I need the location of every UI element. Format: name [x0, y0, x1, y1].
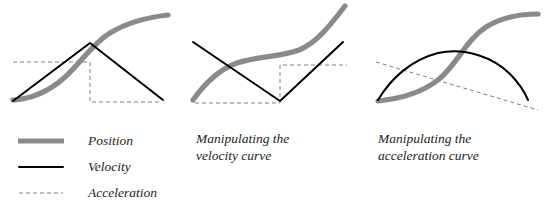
panel-2-plot [185, 0, 361, 125]
panel-position-velocity-acceleration [0, 0, 182, 125]
panel-manipulating-velocity [185, 0, 361, 125]
position-curve [193, 6, 345, 100]
panel-manipulating-acceleration [366, 0, 548, 125]
legend-label-acceleration: Acceleration [88, 180, 157, 206]
legend-item-velocity: Velocity [0, 154, 185, 180]
velocity-line-swatch-icon [18, 160, 64, 174]
legend-item-position: Position [0, 128, 185, 154]
legend-label-position: Position [88, 128, 133, 154]
velocity-curve [378, 51, 528, 100]
velocity-curve [193, 42, 343, 101]
caption-panel-2: Manipulating the velocity curve [196, 131, 361, 164]
legend-item-acceleration: Acceleration [0, 180, 185, 206]
position-line-swatch-icon [18, 134, 64, 148]
position-curve [378, 14, 538, 101]
panel-3-plot [366, 0, 548, 125]
position-curve [13, 15, 168, 100]
caption-panel-3: Manipulating the acceleration curve [378, 131, 548, 164]
panel-row [0, 0, 548, 125]
legend-label-velocity: Velocity [88, 154, 131, 180]
acceleration-curve [376, 62, 538, 110]
panel-1-plot [0, 0, 182, 125]
physics-curves-figure: Position Velocity Acceleration Manipulat… [0, 0, 548, 210]
legend: Position Velocity Acceleration [0, 128, 185, 210]
acceleration-line-swatch-icon [18, 186, 64, 200]
